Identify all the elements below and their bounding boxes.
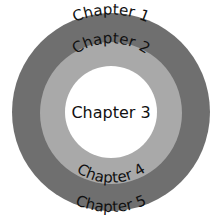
concentric-diagram: Chapter 1 Chapter 2 Chapter 3 Chapter 4 … (0, 0, 222, 223)
label-chapter-3: Chapter 3 (71, 103, 150, 122)
